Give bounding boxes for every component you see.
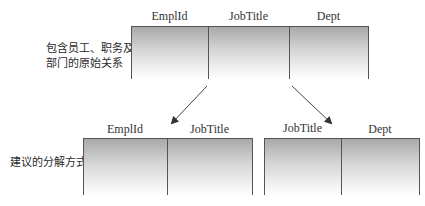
- decomposed-table2-cell-jobtitle: [264, 139, 341, 195]
- decomposed-table2-header-dept: Dept: [341, 122, 419, 137]
- decomposed-table-1: [83, 138, 253, 195]
- decomposed-table1-cell-emplid: [83, 139, 167, 195]
- decomposed-table1-cell-jobtitle: [167, 139, 253, 195]
- arrow-right-icon: [292, 86, 331, 123]
- decomposed-table1-header-jobtitle: JobTitle: [167, 122, 252, 137]
- decomposed-table2-header-jobtitle: JobTitle: [264, 121, 341, 136]
- arrow-left-icon: [172, 86, 207, 123]
- decomposed-table1-header-emplid: EmplId: [83, 122, 167, 137]
- decomposed-table2-cell-dept: [341, 139, 420, 195]
- decomposition-label: 建议的分解方式: [10, 155, 87, 170]
- decomposed-table-2: [264, 138, 420, 195]
